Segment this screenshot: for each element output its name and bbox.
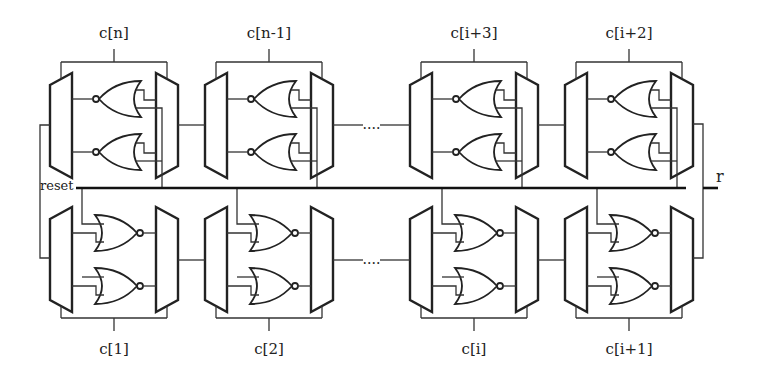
output-wire bbox=[693, 124, 703, 258]
module-label: c[2] bbox=[254, 340, 284, 358]
nor-gate bbox=[248, 134, 296, 170]
wire bbox=[651, 90, 671, 100]
output-mux bbox=[516, 207, 538, 312]
or-body bbox=[614, 134, 656, 170]
output-r-label: r bbox=[716, 167, 724, 186]
module-label: c[n-1] bbox=[247, 24, 291, 42]
wire bbox=[651, 143, 671, 153]
nor-gate bbox=[93, 81, 141, 117]
nor-gate bbox=[608, 134, 656, 170]
input-mux bbox=[565, 73, 587, 178]
module-c[i+1]: c[i+1] bbox=[565, 188, 693, 358]
output-mux bbox=[311, 207, 333, 312]
wire bbox=[136, 143, 156, 153]
or-body bbox=[455, 268, 497, 304]
module-label: c[i+3] bbox=[450, 24, 497, 42]
nor-gate bbox=[248, 81, 296, 117]
module-label: c[1] bbox=[99, 340, 129, 358]
output-mux bbox=[156, 73, 178, 178]
bottom-row: c[1]c[2]c[i]c[i+1] bbox=[50, 188, 693, 358]
input-mux bbox=[565, 207, 587, 312]
wire bbox=[496, 90, 516, 100]
input-mux bbox=[50, 73, 72, 178]
wire bbox=[587, 286, 619, 295]
or-body bbox=[459, 134, 501, 170]
or-body bbox=[254, 81, 296, 117]
reset-label: reset bbox=[40, 178, 74, 193]
input-mux bbox=[50, 207, 72, 312]
circuit-diagram: c[n]c[n-1]c[i+3]c[i+2] c[1]c[2]c[i]c[i+1… bbox=[0, 0, 757, 381]
nor-gate bbox=[250, 268, 298, 304]
module-label: c[n] bbox=[99, 24, 129, 42]
wire bbox=[72, 233, 104, 242]
nor-gate bbox=[453, 81, 501, 117]
or-body bbox=[455, 215, 497, 251]
wire bbox=[291, 143, 311, 153]
output-mux bbox=[671, 73, 693, 178]
wire bbox=[227, 233, 259, 242]
output-mux bbox=[671, 207, 693, 312]
output-mux bbox=[156, 207, 178, 312]
nor-gate bbox=[610, 215, 658, 251]
input-mux bbox=[410, 73, 432, 178]
output-mux bbox=[516, 73, 538, 178]
nor-gate bbox=[608, 81, 656, 117]
or-body bbox=[95, 268, 137, 304]
input-mux bbox=[205, 73, 227, 178]
or-body bbox=[459, 81, 501, 117]
or-body bbox=[610, 215, 652, 251]
wire bbox=[227, 286, 259, 295]
wire bbox=[291, 90, 311, 100]
or-body bbox=[250, 268, 292, 304]
module-c[n]: c[n] bbox=[50, 24, 178, 188]
module-c[n-1]: c[n-1] bbox=[205, 24, 333, 188]
wire bbox=[587, 233, 619, 242]
nor-gate bbox=[455, 268, 503, 304]
module-label: c[i] bbox=[462, 340, 487, 358]
nor-gate bbox=[95, 215, 143, 251]
nor-gate bbox=[93, 134, 141, 170]
or-body bbox=[99, 81, 141, 117]
nor-gate bbox=[610, 268, 658, 304]
nor-gate bbox=[95, 268, 143, 304]
input-mux bbox=[205, 207, 227, 312]
wire bbox=[496, 143, 516, 153]
ellipsis: .... bbox=[363, 251, 381, 267]
wire bbox=[72, 286, 104, 295]
module-label: c[i+1] bbox=[605, 340, 652, 358]
module-c[i+2]: c[i+2] bbox=[565, 24, 693, 188]
input-mux bbox=[410, 207, 432, 312]
top-row: c[n]c[n-1]c[i+3]c[i+2] bbox=[50, 24, 693, 188]
nor-gate bbox=[453, 134, 501, 170]
or-body bbox=[254, 134, 296, 170]
module-c[2]: c[2] bbox=[205, 188, 333, 358]
or-body bbox=[95, 215, 137, 251]
module-c[1]: c[1] bbox=[50, 188, 178, 358]
or-body bbox=[610, 268, 652, 304]
wire bbox=[432, 286, 464, 295]
module-label: c[i+2] bbox=[605, 24, 652, 42]
module-c[i+3]: c[i+3] bbox=[410, 24, 538, 188]
module-c[i]: c[i] bbox=[410, 188, 538, 358]
output-mux bbox=[311, 73, 333, 178]
wire bbox=[432, 233, 464, 242]
or-body bbox=[614, 81, 656, 117]
nor-gate bbox=[455, 215, 503, 251]
or-body bbox=[99, 134, 141, 170]
nor-gate bbox=[250, 215, 298, 251]
ellipsis: .... bbox=[363, 116, 381, 132]
wire bbox=[136, 90, 156, 100]
or-body bbox=[250, 215, 292, 251]
